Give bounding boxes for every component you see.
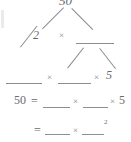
tree-level3-operator-2: × [94,73,99,82]
margin-speck [1,10,4,28]
equation-1-operator-1: × [73,97,78,106]
equation-1-term-2-blank[interactable] [83,107,108,108]
branch-level2-right-right [99,48,116,69]
tree-level3-middle-blank[interactable] [58,83,91,84]
tree-root-label: 50 [59,0,72,7]
equation-2-operator-1: × [73,126,78,135]
branch-level2-right-left [67,47,84,68]
equation-2-equals: = [34,124,41,136]
equation-1-operator-2: × [110,97,115,106]
equation-1-lhs: 50 [14,94,26,106]
branch-root-left [42,7,64,29]
equation-2-term-2-blank[interactable] [82,134,104,135]
worksheet-page: 50 2 × × × 5 50 = × × 5 = × 2 [0,0,131,142]
tree-level3-left-blank[interactable] [6,83,42,84]
equation-2-term-1-blank[interactable] [45,134,70,135]
tree-level2-right-blank[interactable] [76,43,114,44]
tree-level3-operator-1: × [47,73,52,82]
branch-root-right [71,8,93,30]
tree-level2-operator: × [59,31,64,40]
equation-2-exponent: 2 [104,119,108,126]
equation-1-term-3: 5 [119,94,125,106]
equation-1-term-1-blank[interactable] [43,107,70,108]
tree-level3-right-label: 5 [106,69,112,81]
equation-1-equals: = [31,95,38,107]
